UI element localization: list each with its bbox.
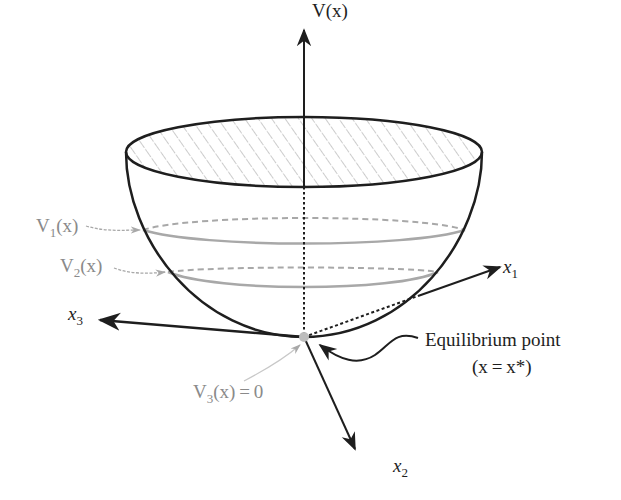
equilibrium-point [299,332,309,342]
v-axis-label: V(x) [312,0,348,22]
x3-axis-label: x3 [67,303,83,328]
v1-base: V [36,215,50,236]
equilibrium-callout-arrow [320,336,418,361]
v1-label: V1(x) [36,215,78,240]
x2-axis-label: x2 [392,455,408,480]
v3-suffix: (x) = 0 [213,381,263,403]
x2-sub: 2 [401,465,408,480]
v3-base: V [193,381,207,402]
v2-suffix: (x) [80,255,102,277]
x2-axis [304,337,355,449]
v3-pointer [244,345,300,381]
x1-sub: 1 [511,266,518,281]
v2-pointer [114,268,165,273]
x1-axis-hidden [304,296,418,337]
v2-label: V2(x) [60,255,102,280]
v2-base: V [60,255,74,276]
v1-suffix: (x) [56,215,78,237]
equilibrium-label: Equilibrium point [425,329,561,350]
v1-pointer [86,226,140,230]
x1-axis-label: x1 [502,256,518,281]
equilibrium-sublabel: (x = x*) [472,356,531,378]
v3-label: V3(x) = 0 [193,381,263,406]
x3-sub: 3 [76,313,83,328]
lyapunov-diagram: V(x) x1 x3 x2 V1(x) V2(x) V3(x) = 0 Equi… [0,0,621,500]
